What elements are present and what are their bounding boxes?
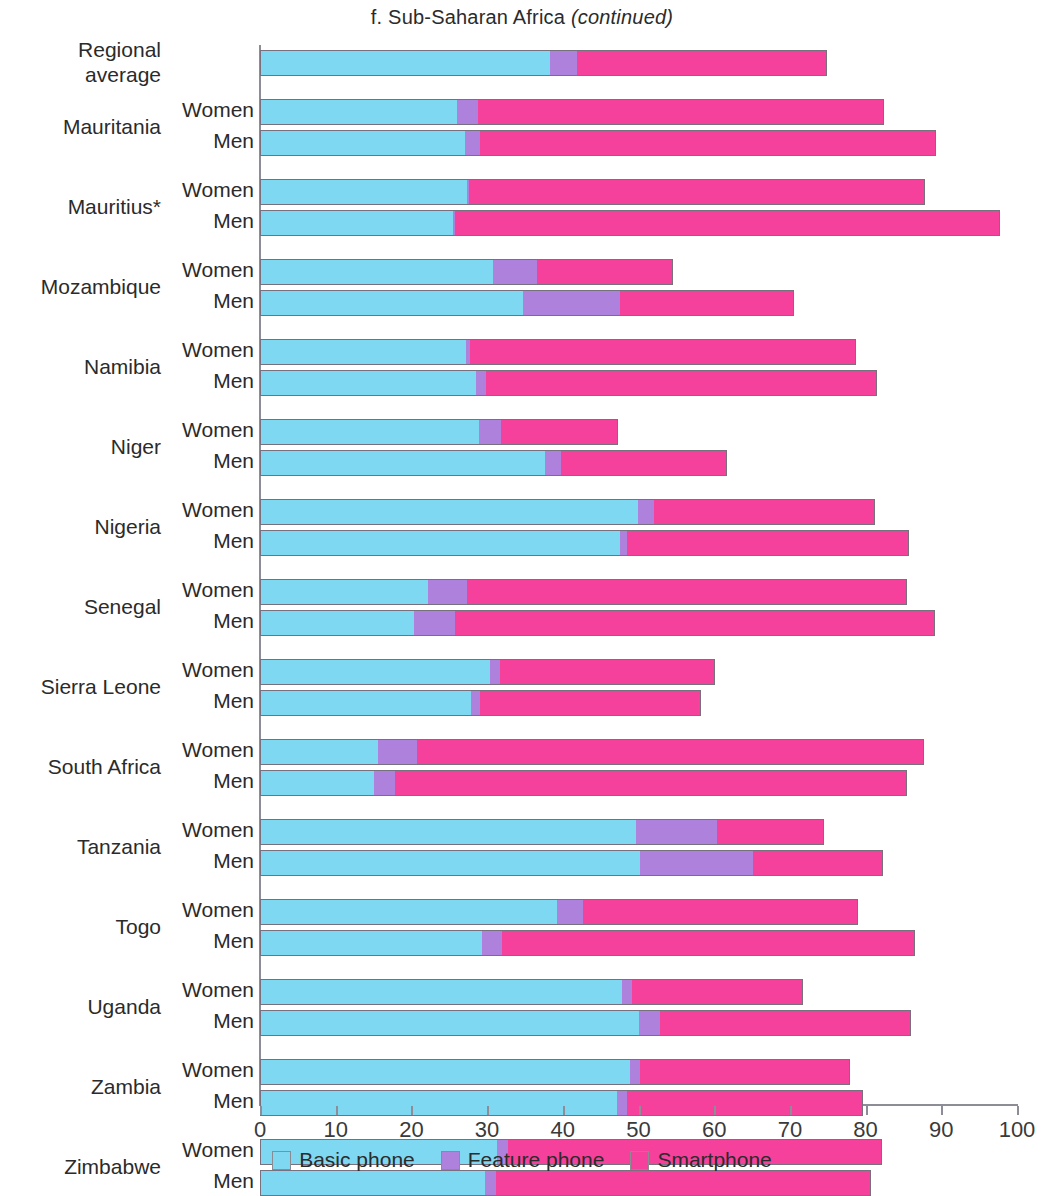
bar-row[interactable]	[260, 499, 875, 525]
bar-segment-feature-phone[interactable]	[638, 499, 654, 525]
bar-segment-smartphone[interactable]	[654, 499, 875, 525]
bar-segment-smartphone[interactable]	[480, 690, 701, 716]
bar-segment-smartphone[interactable]	[640, 1059, 850, 1085]
bar-row[interactable]	[260, 610, 935, 636]
bar-segment-feature-phone[interactable]	[636, 819, 717, 845]
bar-segment-smartphone[interactable]	[500, 659, 715, 685]
bar-row[interactable]	[260, 50, 827, 76]
bar-row[interactable]	[260, 930, 915, 956]
bar-segment-feature-phone[interactable]	[639, 1010, 659, 1036]
bar-row[interactable]	[260, 1170, 871, 1196]
bar-segment-basic-phone[interactable]	[260, 610, 414, 636]
bar-segment-smartphone[interactable]	[577, 50, 827, 76]
bar-segment-basic-phone[interactable]	[260, 450, 545, 476]
bar-segment-smartphone[interactable]	[455, 610, 935, 636]
bar-row[interactable]	[260, 770, 907, 796]
bar-segment-basic-phone[interactable]	[260, 179, 467, 205]
bar-row[interactable]	[260, 130, 936, 156]
bar-segment-feature-phone[interactable]	[620, 530, 628, 556]
bar-segment-basic-phone[interactable]	[260, 899, 557, 925]
bar-segment-smartphone[interactable]	[467, 579, 908, 605]
bar-segment-basic-phone[interactable]	[260, 690, 471, 716]
bar-segment-basic-phone[interactable]	[260, 770, 374, 796]
bar-row[interactable]	[260, 179, 925, 205]
bar-segment-basic-phone[interactable]	[260, 370, 476, 396]
bar-segment-feature-phone[interactable]	[378, 739, 417, 765]
bar-row[interactable]	[260, 530, 909, 556]
bar-segment-basic-phone[interactable]	[260, 579, 428, 605]
bar-row[interactable]	[260, 899, 858, 925]
bar-segment-smartphone[interactable]	[717, 819, 824, 845]
bar-segment-feature-phone[interactable]	[523, 290, 621, 316]
bar-segment-feature-phone[interactable]	[640, 850, 753, 876]
bar-segment-basic-phone[interactable]	[260, 739, 378, 765]
bar-segment-feature-phone[interactable]	[490, 659, 500, 685]
bar-row[interactable]	[260, 419, 618, 445]
bar-segment-feature-phone[interactable]	[557, 899, 583, 925]
bar-segment-feature-phone[interactable]	[622, 979, 633, 1005]
bar-segment-feature-phone[interactable]	[374, 770, 394, 796]
bar-segment-basic-phone[interactable]	[260, 259, 493, 285]
bar-segment-smartphone[interactable]	[632, 979, 802, 1005]
bar-row[interactable]	[260, 259, 673, 285]
bar-segment-smartphone[interactable]	[583, 899, 858, 925]
bar-row[interactable]	[260, 739, 924, 765]
bar-segment-basic-phone[interactable]	[260, 290, 523, 316]
bar-row[interactable]	[260, 210, 1000, 236]
bar-row[interactable]	[260, 659, 715, 685]
legend-item[interactable]: Feature phone	[441, 1148, 605, 1172]
bar-segment-basic-phone[interactable]	[260, 979, 622, 1005]
bar-row[interactable]	[260, 850, 883, 876]
bar-segment-basic-phone[interactable]	[260, 1059, 630, 1085]
bar-segment-basic-phone[interactable]	[260, 819, 636, 845]
bar-segment-basic-phone[interactable]	[260, 659, 490, 685]
bar-segment-smartphone[interactable]	[620, 290, 793, 316]
bar-segment-feature-phone[interactable]	[485, 1170, 496, 1196]
bar-row[interactable]	[260, 290, 794, 316]
bar-segment-smartphone[interactable]	[561, 450, 728, 476]
bar-segment-basic-phone[interactable]	[260, 499, 638, 525]
bar-segment-feature-phone[interactable]	[545, 450, 561, 476]
bar-row[interactable]	[260, 1059, 850, 1085]
bar-row[interactable]	[260, 690, 701, 716]
bar-segment-basic-phone[interactable]	[260, 339, 466, 365]
bar-segment-feature-phone[interactable]	[493, 259, 537, 285]
bar-segment-basic-phone[interactable]	[260, 50, 550, 76]
bar-segment-smartphone[interactable]	[660, 1010, 911, 1036]
bar-segment-basic-phone[interactable]	[260, 419, 479, 445]
bar-segment-feature-phone[interactable]	[482, 930, 502, 956]
bar-segment-smartphone[interactable]	[486, 370, 877, 396]
bar-segment-basic-phone[interactable]	[260, 530, 620, 556]
bar-segment-smartphone[interactable]	[478, 99, 884, 125]
bar-segment-basic-phone[interactable]	[260, 930, 482, 956]
bar-segment-feature-phone[interactable]	[479, 419, 502, 445]
bar-row[interactable]	[260, 370, 877, 396]
bar-segment-basic-phone[interactable]	[260, 1010, 639, 1036]
bar-segment-smartphone[interactable]	[753, 850, 883, 876]
bar-segment-smartphone[interactable]	[480, 130, 936, 156]
bar-segment-feature-phone[interactable]	[630, 1059, 640, 1085]
bar-segment-smartphone[interactable]	[537, 259, 673, 285]
bar-segment-smartphone[interactable]	[470, 339, 857, 365]
bar-row[interactable]	[260, 979, 803, 1005]
bar-segment-feature-phone[interactable]	[457, 99, 478, 125]
bar-segment-basic-phone[interactable]	[260, 99, 457, 125]
bar-segment-feature-phone[interactable]	[428, 579, 467, 605]
bar-row[interactable]	[260, 579, 907, 605]
bar-row[interactable]	[260, 1010, 911, 1036]
bar-segment-smartphone[interactable]	[455, 210, 1000, 236]
legend-item[interactable]: Smartphone	[630, 1148, 771, 1172]
bar-segment-smartphone[interactable]	[502, 930, 915, 956]
bar-segment-basic-phone[interactable]	[260, 850, 640, 876]
bar-segment-basic-phone[interactable]	[260, 210, 453, 236]
bar-segment-smartphone[interactable]	[496, 1170, 871, 1196]
bar-segment-basic-phone[interactable]	[260, 1170, 485, 1196]
bar-segment-smartphone[interactable]	[501, 419, 618, 445]
bar-segment-feature-phone[interactable]	[465, 130, 480, 156]
bar-segment-basic-phone[interactable]	[260, 130, 465, 156]
bar-segment-feature-phone[interactable]	[471, 690, 479, 716]
bar-row[interactable]	[260, 339, 856, 365]
bar-segment-feature-phone[interactable]	[550, 50, 577, 76]
bar-segment-feature-phone[interactable]	[476, 370, 486, 396]
legend-item[interactable]: Basic phone	[272, 1148, 415, 1172]
